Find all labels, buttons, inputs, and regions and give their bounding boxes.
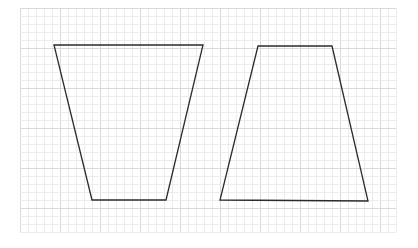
trapezoid-shape <box>220 46 368 201</box>
graph-paper-grid <box>20 8 397 233</box>
grid-diagram-canvas <box>0 0 418 248</box>
